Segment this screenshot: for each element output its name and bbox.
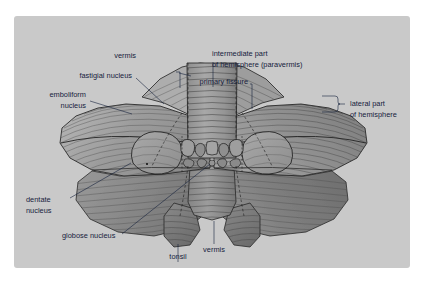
figure-panel: vermis intermediate part of hemisphere (… <box>14 16 410 268</box>
label-intermediate-part-line1: intermediate part <box>212 49 267 58</box>
cerebellum-illustration <box>58 63 369 247</box>
label-emboliform-nucleus-line1: emboliform <box>49 90 86 99</box>
label-intermediate-part-line2: of hemisphere (paravermis) <box>212 60 302 69</box>
label-lateral-part-line2: of hemisphere <box>350 110 397 119</box>
inferior-vermis <box>186 166 238 220</box>
label-tonsil: tonsil <box>169 252 187 261</box>
label-emboliform-nucleus-line2: nucleus <box>61 101 87 110</box>
label-vermis-inferior: vermis <box>203 245 225 254</box>
label-vermis-superior: vermis <box>114 51 136 60</box>
label-dentate-nucleus-line1: dentate <box>26 195 51 204</box>
label-lateral-part-line1: lateral part <box>350 99 385 108</box>
label-fastigial-nucleus: fastigial nucleus <box>79 71 132 80</box>
label-globose-nucleus: globose nucleus <box>62 231 116 240</box>
label-primary-fissure: primary fissure <box>200 77 248 86</box>
cerebellum-diagram: vermis intermediate part of hemisphere (… <box>14 16 410 268</box>
label-dentate-nucleus-line2: nucleus <box>26 206 52 215</box>
